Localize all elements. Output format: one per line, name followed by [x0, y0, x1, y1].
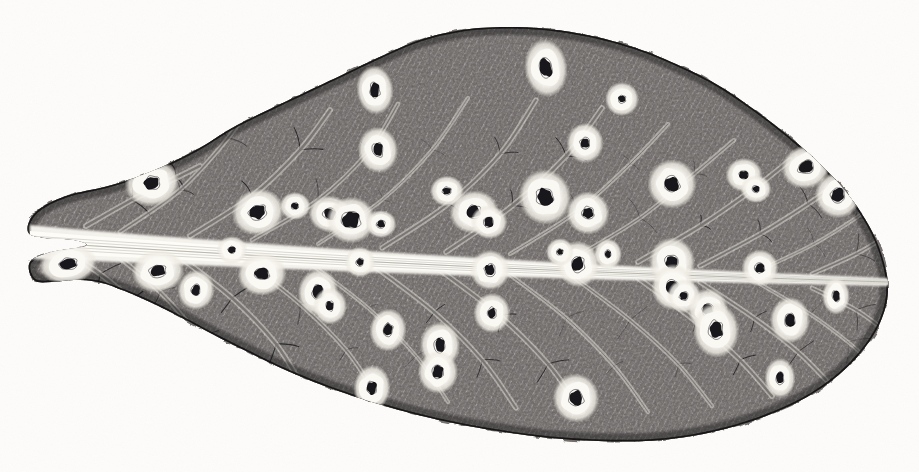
- leaf-spot: [566, 123, 603, 163]
- leaf-spot: [430, 176, 464, 207]
- botanical-plate: [0, 0, 919, 472]
- leaf-spot: [605, 82, 639, 116]
- leaf-spot: [470, 250, 510, 290]
- leaf-spot: [366, 210, 397, 238]
- leaf-spot: [217, 236, 248, 264]
- leaf-spot: [313, 287, 347, 324]
- leaf-spot: [594, 239, 622, 270]
- leaf-spot: [741, 249, 778, 286]
- leaf-spot: [770, 297, 810, 344]
- leaf-illustration: [0, 0, 919, 472]
- leaf-spot: [765, 358, 796, 398]
- leaf-spot: [546, 238, 574, 266]
- leaf-spot: [822, 277, 850, 314]
- leaf-spot: [741, 175, 772, 203]
- leaf-spot: [473, 293, 510, 333]
- leaf-spot: [418, 350, 458, 393]
- leaf-spot: [345, 247, 376, 278]
- leaf-spot: [280, 192, 311, 220]
